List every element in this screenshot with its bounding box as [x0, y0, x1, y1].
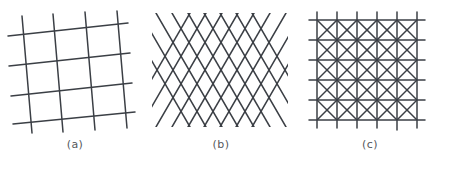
panel-c-label: (c) [295, 138, 445, 151]
panel-b: (b) [146, 0, 296, 170]
panel-a: (a) [0, 0, 150, 170]
mesh-line-diagonal-right [252, 13, 296, 127]
mesh-line-diagonal-right [146, 13, 190, 127]
mesh-pattern-figure: (a) [0, 0, 449, 170]
mesh-line-diagonal-right [146, 13, 206, 127]
mesh-line-vertical [117, 11, 127, 128]
mesh-line-vertical [85, 12, 95, 130]
panel-c: (c) [295, 0, 445, 170]
mesh-line-diagonal-left [146, 13, 190, 127]
mesh-line-horizontal [8, 23, 128, 36]
panel-c-drawing [295, 0, 445, 138]
mesh-line-diagonal-right [236, 13, 296, 127]
panel-b-drawing [146, 0, 296, 138]
mesh-line-diagonal-left [146, 13, 206, 127]
mesh-line-vertical [53, 14, 63, 132]
mesh-line-horizontal [9, 53, 130, 66]
panel-b-label: (b) [146, 138, 296, 151]
mesh-line-diagonal-left [252, 13, 296, 127]
panel-a-label: (a) [0, 138, 150, 151]
mesh-line-diagonal-left [236, 13, 296, 127]
panel-a-drawing [0, 0, 150, 138]
